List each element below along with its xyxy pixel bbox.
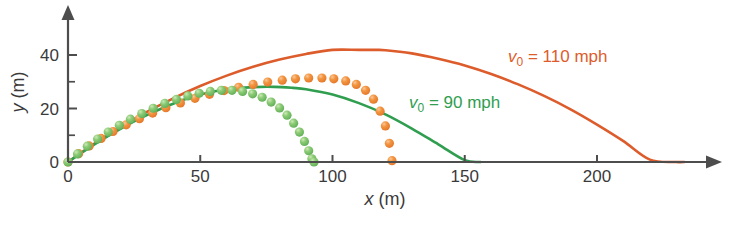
trajectory-dot [115, 121, 124, 130]
trajectory-dot [376, 107, 385, 116]
trajectory-dot [267, 97, 276, 106]
trajectory-dot [263, 77, 272, 86]
trajectory-dot [361, 86, 370, 95]
series-label-90mph-rest: = 90 mph [424, 93, 500, 112]
x-tick-label: 100 [318, 167, 346, 186]
y-tick-label: 20 [40, 100, 59, 119]
trajectory-dot [73, 149, 82, 158]
trajectory-dot [249, 80, 258, 89]
trajectory-dot [369, 95, 378, 104]
dot-trajectories-layer [63, 73, 396, 166]
trajectory-dot [291, 74, 300, 83]
trajectory-dot [160, 99, 169, 108]
series-label-110mph-rest: = 110 mph [523, 47, 607, 66]
tick-labels-layer: 05010015020002040 [40, 46, 611, 186]
y-axis-label-unit: (m) [8, 72, 28, 99]
trajectory-dot [104, 127, 113, 136]
projectile-motion-chart: 05010015020002040 x(m) y(m) v0 = 110 mph… [0, 0, 730, 225]
trajectory-dot [278, 76, 287, 85]
trajectory-dot [217, 86, 226, 95]
trajectory-dot [352, 80, 361, 89]
trajectory-dot [83, 142, 92, 151]
y-axis-label: y(m) [8, 72, 28, 115]
trajectory-dot [195, 89, 204, 98]
trajectory-dot [289, 119, 298, 128]
chart-canvas: 05010015020002040 x(m) y(m) v0 = 110 mph… [0, 0, 730, 225]
trajectory-dot [172, 95, 181, 104]
trajectory-dot [206, 87, 215, 96]
y-tick-label: 0 [50, 153, 59, 172]
dots-v0-90-mph-with-drag- [63, 86, 318, 167]
trajectory-dot [381, 121, 390, 130]
y-axis-label-symbol: y [8, 102, 28, 114]
curve-v0-110-mph-no-drag- [68, 50, 684, 163]
trajectory-dot [282, 111, 291, 120]
trajectory-dot [295, 127, 304, 136]
y-axis-arrowhead [62, 5, 75, 20]
trajectory-dot [137, 109, 146, 118]
x-tick-label: 200 [583, 167, 611, 186]
series-label-90mph: v0 = 90 mph [409, 93, 500, 115]
trajectory-dot [317, 73, 326, 82]
trajectory-dot [275, 103, 284, 112]
x-axis-label-symbol: x [364, 189, 375, 209]
y-tick-label: 40 [40, 46, 59, 65]
x-tick-label: 150 [451, 167, 479, 186]
y-axis-ticks [68, 55, 77, 135]
trajectory-dot [329, 74, 338, 83]
trajectory-dot [258, 93, 267, 102]
trajectory-dot [300, 137, 309, 146]
x-axis-label: x(m) [364, 189, 406, 209]
trajectory-dot [341, 76, 350, 85]
trajectory-dot [149, 104, 158, 113]
trajectory-dot [126, 115, 135, 124]
trajectory-dot [238, 87, 247, 96]
trajectory-dot [387, 156, 396, 165]
trajectory-dot [304, 146, 313, 155]
series-label-110mph: v0 = 110 mph [508, 47, 607, 69]
trajectory-dot [385, 139, 394, 148]
trajectory-dot [93, 134, 102, 143]
curves-layer [68, 50, 684, 163]
x-axis-label-unit: (m) [379, 189, 406, 209]
trajectory-dot [304, 73, 313, 82]
trajectory-dot [248, 89, 257, 98]
x-tick-label: 0 [63, 167, 72, 186]
x-tick-label: 50 [191, 167, 210, 186]
x-axis-arrowhead [706, 156, 722, 169]
trajectory-dot [183, 91, 192, 100]
trajectory-dot [227, 86, 236, 95]
